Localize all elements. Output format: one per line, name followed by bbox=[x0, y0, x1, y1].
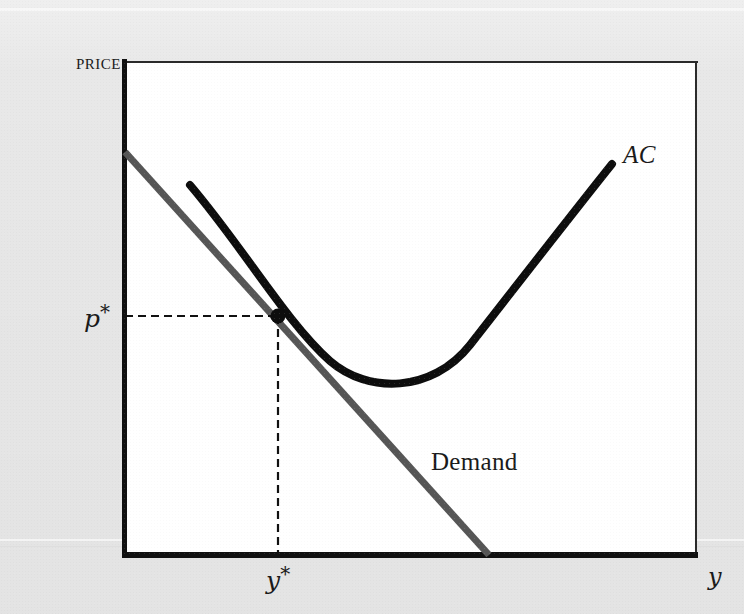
price-star-base: p bbox=[84, 304, 100, 333]
demand-curve-label: Demand bbox=[431, 449, 518, 474]
quantity-star-label: y* bbox=[266, 564, 289, 593]
price-star-label: p* bbox=[84, 302, 109, 331]
quantity-star-base: y bbox=[266, 566, 280, 595]
y-axis-label: PRICE bbox=[76, 57, 121, 72]
price-star-asterisk: * bbox=[100, 300, 109, 324]
chart-curves bbox=[0, 0, 744, 614]
demand-curve bbox=[125, 152, 489, 555]
equilibrium-point-marker bbox=[271, 309, 286, 324]
average-cost-curve bbox=[190, 164, 612, 384]
quantity-star-asterisk: * bbox=[280, 562, 289, 586]
average-cost-curve-label: AC bbox=[623, 142, 656, 167]
x-axis-label: y bbox=[708, 565, 722, 589]
figure-page: PRICE p* y* AC Demand y bbox=[0, 0, 744, 614]
